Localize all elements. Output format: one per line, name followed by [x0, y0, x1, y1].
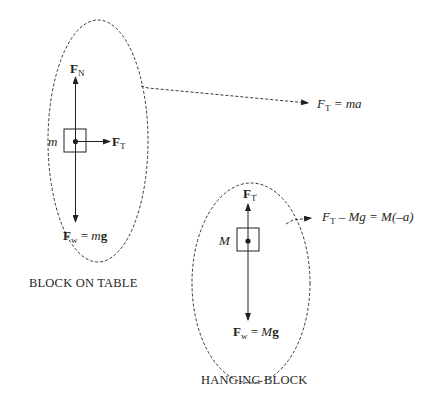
symbol: F	[317, 96, 325, 111]
equals: =	[251, 324, 258, 339]
weight-force-label-right: Fw = Mg	[233, 325, 279, 341]
symbol: F	[322, 209, 330, 224]
mass: M	[261, 324, 272, 339]
normal-force-label: FN	[70, 62, 84, 78]
left-equation: FT = ma	[317, 97, 362, 113]
equation-rest: – Mg = M(–a)	[335, 209, 413, 224]
right-dashed-ellipse	[192, 183, 310, 383]
left-equation-pointer	[141, 86, 308, 103]
subscript: w	[71, 235, 78, 245]
symbol: F	[243, 186, 251, 201]
symbol: F	[112, 134, 120, 149]
equals: =	[81, 228, 88, 243]
subscript: T	[120, 141, 126, 151]
block-on-table-caption: BLOCK ON TABLE	[29, 276, 138, 291]
free-body-diagram	[0, 0, 427, 393]
g-vector: g	[101, 228, 108, 243]
weight-force-label-left: Fw = mg	[63, 229, 107, 245]
left-mass-label: m	[48, 135, 57, 148]
right-equation: FT – Mg = M(–a)	[322, 210, 414, 226]
subscript: w	[241, 331, 248, 341]
subscript: N	[78, 68, 85, 78]
symbol: F	[233, 324, 241, 339]
symbol: F	[70, 61, 78, 76]
equation-rest: = ma	[330, 96, 361, 111]
right-mass-label: M	[219, 234, 230, 247]
mass: m	[91, 228, 100, 243]
tension-force-label-right: FT	[243, 187, 256, 203]
g-vector: g	[272, 324, 279, 339]
symbol: F	[63, 228, 71, 243]
subscript: T	[251, 193, 257, 203]
hanging-block-caption: HANGING BLOCK	[201, 373, 307, 388]
tension-force-label-left: FT	[112, 135, 125, 151]
